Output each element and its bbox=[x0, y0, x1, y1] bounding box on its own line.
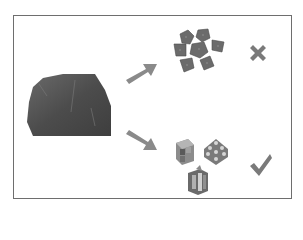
arrow-down-right-icon bbox=[124, 128, 160, 154]
rock-icon bbox=[25, 72, 115, 137]
check-icon bbox=[248, 152, 274, 178]
irregular-fragments-icon bbox=[172, 28, 228, 78]
arrow-up-right-icon bbox=[124, 60, 160, 86]
interlocking-blocks-icon bbox=[174, 135, 234, 195]
cross-icon bbox=[247, 42, 269, 64]
